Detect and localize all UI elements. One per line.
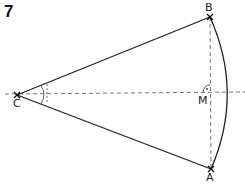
label-B: B bbox=[205, 1, 213, 14]
label-A: A bbox=[206, 171, 214, 184]
dashed-segment-BA bbox=[210, 17, 211, 169]
horizontal-dashed-axis bbox=[5, 92, 245, 94]
right-angle-dot-M bbox=[206, 88, 208, 90]
angle-arc-C-upper bbox=[41, 86, 44, 94]
segment-CA bbox=[17, 95, 211, 169]
angle-arc-C-lower bbox=[41, 94, 44, 104]
arc-BA bbox=[210, 17, 227, 169]
segment-CB bbox=[17, 17, 210, 95]
geometry-figure bbox=[0, 0, 245, 190]
label-M: M bbox=[198, 94, 208, 107]
label-C: C bbox=[13, 97, 21, 110]
